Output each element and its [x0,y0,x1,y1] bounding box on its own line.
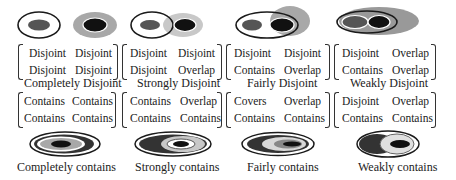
relation-matrix: Disjoint Disjoint Disjoint Disjoint [18,44,118,80]
matrix-cell: Contains [284,110,325,127]
region-a-core [242,20,262,31]
region-core [51,141,71,148]
matrix-cell: Contains [24,110,65,127]
strongly-disjoint-figure [130,10,230,44]
bracket-right [431,44,436,80]
matrix-cell: Disjoint [178,45,215,62]
bracket-left [122,92,127,128]
bracket-right [325,44,330,80]
bracket-left [18,92,23,128]
relation-matrix: Contains Contains Contains Contains [18,92,116,128]
relation-matrix: Covers Overlap Contains Contains [226,92,330,128]
bracket-left [122,44,127,80]
panel-caption: Completely contains [17,160,116,175]
matrix-cell: Contains [24,93,65,110]
fairly-contains-figure [240,131,320,159]
relation-matrix: Disjoint Overlap Contains Contains [334,92,436,128]
fairly-disjoint-figure [232,4,332,44]
matrix-cell: Overlap [180,93,217,110]
region-b-core [83,18,107,32]
bracket-left [226,44,231,80]
matrix-cell: Overlap [284,93,321,110]
matrix-cell: Disjoint [234,45,271,62]
matrix-cell: Contains [130,93,171,110]
region-core [390,140,410,148]
panel-caption: Weakly Disjoint [350,76,428,91]
strongly-contains-figure [133,131,219,159]
matrix-cell: Contains [234,110,275,127]
matrix-cell: Disjoint [284,45,321,62]
matrix-cell: Contains [72,110,113,127]
panel-caption: Completely Disjoint [24,76,122,91]
weakly-contains-figure [355,130,425,160]
bracket-left [334,92,339,128]
relation-matrix: Disjoint Disjoint Disjoint Overlap [122,44,222,80]
relation-matrix: Disjoint Overlap Contains Overlap [334,44,436,80]
matrix-cell: Contains [72,93,113,110]
region-b-core [270,18,294,32]
matrix-cell: Covers [234,93,267,110]
relation-matrix: Contains Overlap Contains Contains [122,92,222,128]
bracket-left [226,92,231,128]
region-b-core [368,16,390,29]
matrix-cell: Disjoint [342,93,379,110]
panel-caption: Strongly contains [135,160,219,175]
region-b-core [174,19,196,32]
bracket-left [18,44,23,80]
panel-caption: Fairly Disjoint [247,76,317,91]
bracket-right [113,44,118,80]
region-a-core [342,16,368,29]
completely-disjoint-figure [18,10,118,44]
matrix-cell: Contains [130,110,171,127]
region-core [173,141,189,147]
matrix-cell: Contains [342,110,383,127]
panel-caption: Weakly contains [358,160,437,175]
matrix-cell: Overlap [392,93,429,110]
matrix-cell: Disjoint [75,45,112,62]
panel-caption: Strongly Disjoint [137,76,220,91]
matrix-cell: Contains [392,110,433,127]
matrix-cell: Overlap [392,45,429,62]
matrix-cell: Disjoint [342,45,379,62]
bracket-right [217,44,222,80]
panel-caption: Fairly contains [247,160,319,175]
matrix-cell: Disjoint [29,45,66,62]
bracket-left [334,44,339,80]
bracket-right [325,92,330,128]
region-a-core [28,20,50,31]
matrix-cell: Disjoint [130,45,167,62]
weakly-disjoint-figure [335,6,445,40]
matrix-cell: Contains [180,110,221,127]
relation-matrix: Disjoint Disjoint Contains Overlap [226,44,330,80]
completely-contains-figure [28,131,108,159]
region-a-core [140,20,160,30]
region-core [283,142,301,147]
